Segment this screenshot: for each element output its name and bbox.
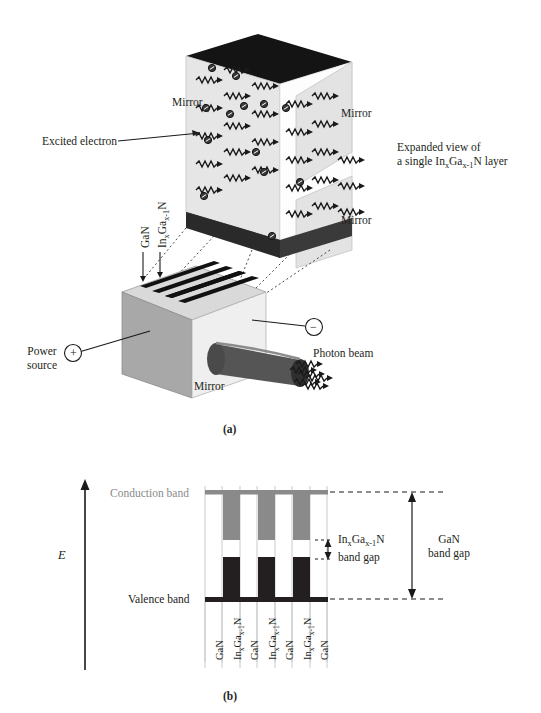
layer-label-4: GaN <box>283 640 296 660</box>
ingan-bandgap-arrow-down <box>325 552 332 560</box>
ingan-bandgap-arrow-up <box>325 539 332 547</box>
layer-label-6: GaN <box>318 640 331 660</box>
ingan-gap-line2: band gap <box>338 551 380 563</box>
gan-gap-line1: GaN <box>438 533 460 545</box>
label-conduction-band: Conduction band <box>110 486 189 500</box>
ingan-gap-mid: Ga <box>352 533 365 545</box>
gan-bandgap-arrow-up <box>408 492 416 502</box>
layer-label-1: InxGax-1N <box>231 618 247 660</box>
conduction-band-wells <box>223 490 310 540</box>
energy-axis-label: E <box>58 548 66 564</box>
layer-label-5: InxGax-1N <box>301 618 317 660</box>
label-gan-band-gap: GaN band gap <box>413 532 485 561</box>
figure-panel-b <box>0 0 541 713</box>
caption-panel-b: (b) <box>223 690 237 702</box>
layer-label-0: GaN <box>213 640 226 660</box>
layer-label-2: GaN <box>248 640 261 660</box>
energy-axis-arrowhead <box>81 479 90 490</box>
gan-gap-line2: band gap <box>428 547 470 559</box>
valence-band-wells <box>223 557 310 602</box>
panel-b-graphic <box>0 0 541 713</box>
label-valence-band: Valence band <box>128 592 190 606</box>
ingan-gap-pre: In <box>338 533 348 545</box>
layer-label-3: InxGax-1N <box>266 618 282 660</box>
label-ingan-band-gap: InxGax-1N band gap <box>338 532 385 564</box>
ingan-gap-post: N <box>376 533 384 545</box>
gan-bandgap-arrow-down <box>408 589 416 599</box>
ingan-gap-sub2: x-1 <box>365 539 376 548</box>
